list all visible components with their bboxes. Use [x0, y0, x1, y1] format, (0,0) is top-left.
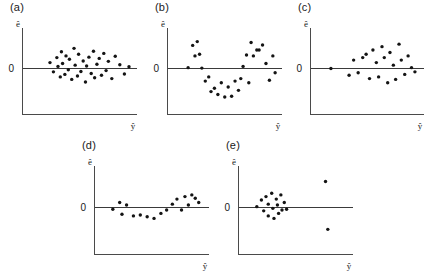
data-point — [64, 54, 67, 57]
panel-e-label: (e) — [226, 140, 240, 151]
data-point — [183, 195, 186, 198]
panel-a-points — [48, 47, 130, 84]
data-point — [110, 77, 113, 80]
data-point — [175, 197, 178, 200]
data-point — [267, 202, 270, 205]
data-point — [271, 54, 274, 57]
data-point — [180, 208, 183, 211]
data-point — [283, 201, 286, 204]
data-point — [59, 75, 62, 78]
data-point — [60, 50, 63, 53]
data-point — [68, 58, 71, 61]
data-point — [81, 59, 84, 62]
panel-b-x-axis-label: ŷ — [276, 121, 281, 131]
data-point — [73, 63, 76, 66]
data-point — [257, 48, 260, 51]
panel-e-plot: 0 ê ŷ — [216, 154, 361, 272]
data-point — [273, 71, 276, 74]
data-point — [95, 63, 98, 66]
panel-d-svg: 0 ê ŷ — [72, 154, 217, 272]
data-point — [197, 201, 200, 204]
data-point — [98, 57, 101, 60]
panel-c-points — [329, 42, 416, 84]
data-point — [386, 81, 389, 84]
data-point — [93, 76, 96, 79]
panel-a-svg: 0 ê ŷ — [0, 16, 145, 132]
data-point — [152, 217, 155, 220]
data-point — [394, 78, 397, 81]
panel-c-zero-tick-label: 0 — [296, 63, 302, 74]
data-point — [375, 61, 378, 64]
panel-d-x-axis-label: ŷ — [203, 261, 208, 271]
data-point — [61, 62, 64, 65]
data-point — [114, 55, 117, 58]
panel-e-points — [255, 180, 329, 231]
data-point — [245, 53, 248, 56]
data-point — [233, 79, 236, 82]
data-point — [191, 44, 194, 47]
data-point — [187, 203, 190, 206]
data-point — [410, 66, 413, 69]
data-point — [204, 79, 207, 82]
panel-a-zero-tick-label: 0 — [8, 63, 14, 74]
panel-a-label: (a) — [10, 2, 24, 13]
data-point — [165, 208, 168, 211]
data-point — [255, 205, 258, 208]
panel-b: (b) 0 ê ŷ — [145, 2, 290, 132]
panel-b-zero-tick-label: 0 — [153, 63, 159, 74]
panel-b-y-axis-label: ê — [161, 19, 165, 29]
data-point — [364, 53, 367, 56]
data-point — [271, 207, 274, 210]
data-point — [90, 72, 93, 75]
data-point — [118, 63, 121, 66]
data-point — [55, 56, 58, 59]
data-point — [200, 66, 203, 69]
data-point — [261, 43, 264, 46]
data-point — [276, 203, 279, 206]
data-point — [400, 58, 403, 61]
data-point — [268, 79, 271, 82]
data-point — [220, 81, 223, 84]
data-point — [92, 50, 95, 53]
data-point — [247, 81, 250, 84]
data-point — [237, 89, 240, 92]
data-point — [111, 207, 114, 210]
panel-c-axis-frame — [311, 28, 425, 115]
data-point — [277, 212, 280, 215]
data-point — [380, 45, 383, 48]
data-point — [186, 66, 189, 69]
panel-d: (d) 0 ê ŷ — [72, 140, 217, 272]
data-point — [262, 209, 265, 212]
data-point — [48, 61, 51, 64]
data-point — [102, 52, 105, 55]
data-point — [207, 75, 210, 78]
data-point — [329, 67, 332, 70]
data-point — [230, 95, 233, 98]
panel-b-axis-frame — [168, 28, 283, 115]
panel-d-y-axis-label: ê — [88, 157, 92, 167]
data-point — [388, 51, 391, 54]
data-point — [52, 70, 55, 73]
data-point — [56, 65, 59, 68]
data-point — [67, 68, 70, 71]
data-point — [383, 56, 386, 59]
data-point — [87, 55, 90, 58]
data-point — [120, 213, 123, 216]
panel-d-zero-tick-label: 0 — [80, 202, 86, 213]
panel-b-plot: 0 ê ŷ — [145, 16, 290, 132]
data-point — [193, 54, 196, 57]
panel-d-label: (d) — [82, 140, 96, 151]
panel-e-zero-tick-label: 0 — [224, 202, 230, 213]
data-point — [79, 70, 82, 73]
panel-b-label: (b) — [155, 2, 169, 13]
data-point — [226, 85, 229, 88]
data-point — [403, 73, 406, 76]
data-point — [377, 75, 380, 78]
data-point — [347, 74, 350, 77]
panel-d-plot: 0 ê ŷ — [72, 154, 217, 272]
data-point — [352, 58, 355, 61]
data-point — [171, 202, 174, 205]
data-point — [272, 217, 275, 220]
data-point — [371, 48, 374, 51]
panel-a-y-axis-label: ê — [16, 19, 20, 29]
